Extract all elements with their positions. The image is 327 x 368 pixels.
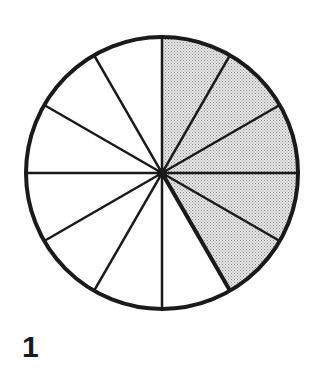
figure-label: 1 bbox=[22, 332, 39, 362]
center-point bbox=[157, 168, 167, 178]
fraction-circle bbox=[0, 0, 327, 368]
